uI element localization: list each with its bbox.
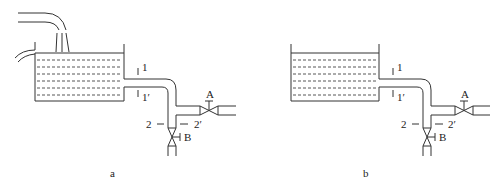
label-valve-b: B xyxy=(439,131,446,143)
tank-a xyxy=(35,44,124,101)
caption-b: b xyxy=(363,167,369,179)
valve-a-icon[interactable] xyxy=(455,101,473,115)
label-2p: 2′ xyxy=(448,118,456,130)
inflow-pipe xyxy=(18,13,69,52)
valve-b-icon[interactable] xyxy=(168,128,180,146)
label-valve-a: A xyxy=(206,88,214,100)
valve-a-icon[interactable] xyxy=(200,101,218,115)
label-2: 2 xyxy=(146,118,152,130)
valve-b-icon[interactable] xyxy=(423,128,435,146)
label-valve-a: A xyxy=(461,88,469,100)
tank-diagrams: 1 1′ 2 2′ A B a xyxy=(0,0,500,189)
label-valve-b: B xyxy=(184,131,191,143)
outlet-pipe-b xyxy=(379,79,490,156)
diagram-b: 1 1′ 2 2′ A B b xyxy=(291,44,490,179)
outlet-pipe-a xyxy=(124,79,236,156)
label-1: 1 xyxy=(142,61,148,73)
label-1p: 1′ xyxy=(142,91,150,103)
diagram-a: 1 1′ 2 2′ A B a xyxy=(15,13,236,179)
label-1p: 1′ xyxy=(397,91,405,103)
label-1: 1 xyxy=(397,61,403,73)
caption-a: a xyxy=(110,167,115,179)
label-2p: 2′ xyxy=(194,118,202,130)
tank-b xyxy=(291,44,379,101)
overflow-pipe xyxy=(15,42,35,62)
label-2: 2 xyxy=(401,118,407,130)
